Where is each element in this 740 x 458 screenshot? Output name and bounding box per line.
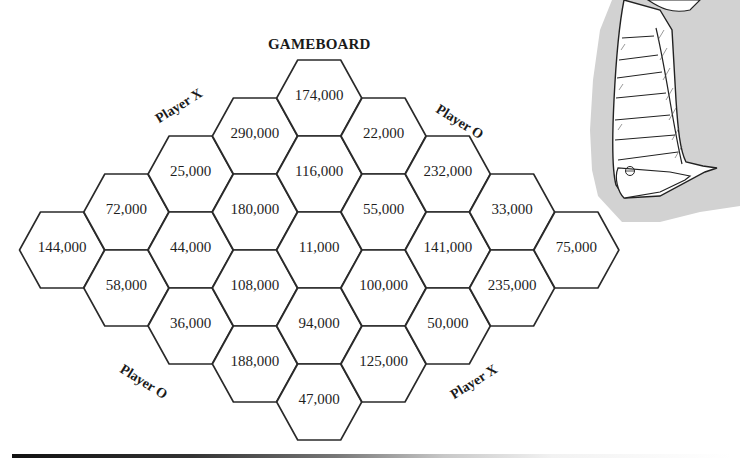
hex-value: 188,000 — [231, 353, 280, 369]
hex-value: 290,000 — [231, 125, 280, 141]
hex-value: 144,000 — [38, 239, 87, 255]
hex-value: 11,000 — [299, 239, 340, 255]
hex-value: 25,000 — [170, 163, 211, 179]
hex-gameboard: 144,00072,00058,00025,00044,00036,000290… — [0, 0, 740, 458]
hex-value: 47,000 — [299, 391, 340, 407]
hex-value: 180,000 — [231, 201, 280, 217]
hex-value: 58,000 — [106, 277, 147, 293]
hex-value: 75,000 — [556, 239, 597, 255]
hex-value: 100,000 — [359, 277, 408, 293]
hex-value: 44,000 — [170, 239, 211, 255]
bottom-rule-divider — [12, 454, 732, 458]
hex-value: 55,000 — [363, 201, 404, 217]
hex-value: 36,000 — [170, 315, 211, 331]
hex-value: 141,000 — [423, 239, 472, 255]
hex-value: 108,000 — [231, 277, 280, 293]
hex-value: 72,000 — [106, 201, 147, 217]
hex-value: 50,000 — [427, 315, 468, 331]
hex-value: 125,000 — [359, 353, 408, 369]
hex-value: 232,000 — [423, 163, 472, 179]
hex-value: 33,000 — [491, 201, 532, 217]
hex-cells-layer: 144,00072,00058,00025,00044,00036,000290… — [20, 60, 619, 440]
hex-value: 116,000 — [295, 163, 343, 179]
hex-value: 22,000 — [363, 125, 404, 141]
hex-value: 235,000 — [488, 277, 537, 293]
hex-value: 174,000 — [295, 87, 344, 103]
leg-illustration-icon — [590, 0, 740, 222]
hex-value: 94,000 — [299, 315, 340, 331]
